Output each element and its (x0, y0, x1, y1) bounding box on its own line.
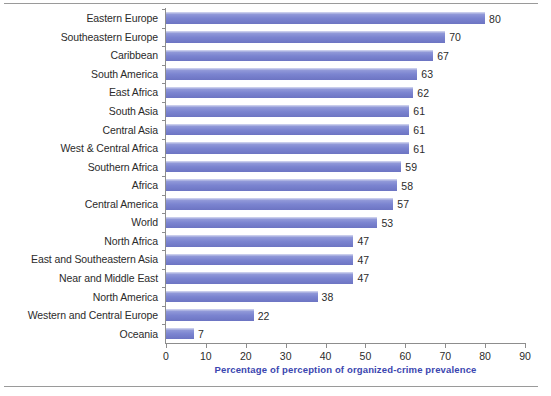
category-label: Caribbean (110, 49, 158, 61)
bar-row: South Asia61 (166, 102, 525, 121)
y-axis-tick (162, 269, 166, 270)
bar: 58 (166, 179, 397, 191)
y-axis-tick (162, 306, 166, 307)
plot-area: Eastern Europe80Southeastern Europe70Car… (166, 9, 525, 343)
category-label: South America (91, 68, 158, 80)
bar: 53 (166, 217, 377, 229)
y-axis-tick (162, 176, 166, 177)
bar-value-label: 57 (397, 198, 409, 210)
bar-value-label: 38 (322, 291, 334, 303)
bar-value-label: 70 (449, 31, 461, 43)
category-label: Oceania (120, 328, 158, 340)
bar-row: Near and Middle East47 (166, 269, 525, 288)
bar-value-label: 47 (357, 272, 369, 284)
category-label: East and Southeastern Asia (31, 253, 158, 265)
bar-row: Central Asia61 (166, 120, 525, 139)
bar: 62 (166, 87, 413, 99)
bar-row: East Africa62 (166, 83, 525, 102)
category-label: South Asia (109, 105, 158, 117)
x-axis-tick (365, 343, 366, 348)
x-axis-tick-label: 20 (240, 350, 252, 362)
bar-row: Southeastern Europe70 (166, 28, 525, 47)
bar-row: South America63 (166, 65, 525, 84)
x-axis-tick (166, 343, 167, 348)
y-axis-tick (162, 9, 166, 10)
bar: 70 (166, 31, 445, 43)
x-axis-tick-label: 30 (280, 350, 292, 362)
bar-row: Western and Central Europe22 (166, 306, 525, 325)
category-label: World (131, 216, 158, 228)
y-axis-tick (162, 324, 166, 325)
bar: 47 (166, 235, 353, 247)
x-axis-tick (485, 343, 486, 348)
bar-row: Caribbean67 (166, 46, 525, 65)
category-label: North America (93, 291, 158, 303)
x-axis-tick (326, 343, 327, 348)
category-label: Eastern Europe (86, 12, 158, 24)
category-label: East Africa (109, 86, 158, 98)
y-axis-tick (162, 102, 166, 103)
bar-row: Oceania7 (166, 324, 525, 343)
y-axis-tick (162, 139, 166, 140)
y-axis-tick (162, 213, 166, 214)
x-axis-tick-label: 90 (519, 350, 531, 362)
bar-row: West & Central Africa61 (166, 139, 525, 158)
y-axis-tick (162, 65, 166, 66)
page-rule-bottom (4, 386, 538, 387)
page-rule-top (4, 3, 538, 4)
bar-value-label: 58 (401, 180, 413, 192)
bar-value-label: 62 (417, 87, 429, 99)
bar: 61 (166, 142, 409, 154)
bar-value-label: 7 (198, 328, 204, 340)
bar-row: Central America57 (166, 195, 525, 214)
y-axis-tick (162, 157, 166, 158)
y-axis-tick (162, 28, 166, 29)
bar-row: Eastern Europe80 (166, 9, 525, 28)
bar: 61 (166, 105, 409, 117)
bar-value-label: 61 (413, 105, 425, 117)
x-axis-tick-label: 80 (479, 350, 491, 362)
category-label: Southeastern Europe (61, 31, 158, 43)
bar-row: Africa58 (166, 176, 525, 195)
x-axis-tick (525, 343, 526, 348)
bar: 7 (166, 328, 194, 340)
bar-row: East and Southeastern Asia47 (166, 250, 525, 269)
bar: 47 (166, 254, 353, 266)
bar-value-label: 47 (357, 254, 369, 266)
bar: 61 (166, 124, 409, 136)
category-label: Western and Central Europe (28, 309, 158, 321)
category-label: Near and Middle East (59, 272, 158, 284)
bar-row: Southern Africa59 (166, 157, 525, 176)
bar-value-label: 61 (413, 124, 425, 136)
x-axis-tick (206, 343, 207, 348)
x-axis-tick-label: 60 (399, 350, 411, 362)
x-axis-tick (286, 343, 287, 348)
chart-figure: Eastern Europe80Southeastern Europe70Car… (0, 0, 551, 396)
x-axis-tick-label: 70 (439, 350, 451, 362)
bar-row: North Africa47 (166, 232, 525, 251)
y-axis-tick (162, 120, 166, 121)
bar-row: North America38 (166, 287, 525, 306)
category-label: West & Central Africa (61, 142, 159, 154)
x-axis-tick (405, 343, 406, 348)
x-axis-title: Percentage of perception of organized-cr… (166, 364, 525, 375)
category-label: Central Asia (103, 124, 158, 136)
bar: 22 (166, 309, 254, 321)
y-axis-tick (162, 232, 166, 233)
bar-value-label: 22 (258, 310, 270, 322)
x-axis-tick-label: 40 (320, 350, 332, 362)
bar-value-label: 47 (357, 235, 369, 247)
x-axis-tick (246, 343, 247, 348)
y-axis-tick (162, 46, 166, 47)
x-axis-line (165, 343, 526, 344)
y-axis-tick (162, 287, 166, 288)
bar: 59 (166, 161, 401, 173)
y-axis-tick (162, 83, 166, 84)
x-axis-tick-label: 10 (200, 350, 212, 362)
category-label: Southern Africa (88, 161, 158, 173)
y-axis-tick (162, 195, 166, 196)
bar: 63 (166, 68, 417, 80)
bar: 38 (166, 291, 318, 303)
bar-value-label: 63 (421, 68, 433, 80)
category-label: Central America (85, 198, 158, 210)
